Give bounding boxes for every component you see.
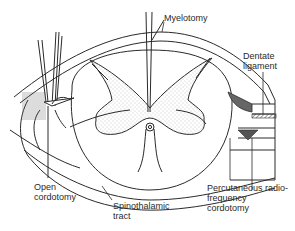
spinal-cord-outline: [71, 50, 232, 190]
label-spinothalamic-line2: tract: [113, 211, 131, 221]
label-dentate-ligament-line1: Dentate: [243, 51, 275, 61]
label-open-cordotomy-line1: Open: [34, 182, 56, 192]
label-percutaneous-line3: cordotomy: [207, 203, 249, 213]
label-percutaneous-line1: Percutaneous radio-: [207, 183, 288, 193]
label-dentate-ligament-line2: ligament: [243, 61, 277, 71]
label-myelotomy: Myelotomy: [164, 13, 208, 23]
spinal-cord-diagram: Myelotomy Dentate ligament Open cordotom…: [0, 0, 295, 231]
label-spinothalamic-line1: Spinothalamic: [113, 201, 170, 211]
central-canal: [138, 123, 162, 172]
label-open-cordotomy-line2: cordotomy: [34, 192, 76, 202]
label-percutaneous-line2: frequency: [207, 193, 247, 203]
